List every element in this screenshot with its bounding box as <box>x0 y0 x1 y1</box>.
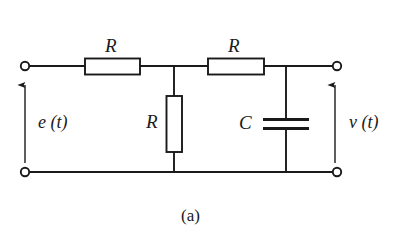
terminal-output-bottom <box>333 168 341 176</box>
capacitor-shunt-label: C <box>239 113 252 132</box>
resistor-series-left-label: R <box>105 36 117 55</box>
terminal-input-bottom <box>21 168 29 176</box>
terminal-input-top <box>21 62 29 70</box>
resistor-body <box>85 59 140 75</box>
resistor-series-right <box>208 59 264 75</box>
figure-caption: (a) <box>181 207 200 224</box>
resistor-shunt-middle <box>167 96 183 152</box>
resistor-body <box>167 96 183 152</box>
terminal-output-top <box>333 62 341 70</box>
resistor-series-right-label: R <box>228 36 240 55</box>
resistor-series-left <box>85 59 140 75</box>
resistor-body <box>208 59 264 75</box>
input-voltage-label: e (t) <box>38 113 67 131</box>
output-voltage-label: v (t) <box>349 113 378 131</box>
capacitor-shunt <box>263 120 309 129</box>
circuit-figure: R R R C e (t) v (t) (a) <box>0 0 400 241</box>
resistor-shunt-middle-label: R <box>146 112 158 131</box>
